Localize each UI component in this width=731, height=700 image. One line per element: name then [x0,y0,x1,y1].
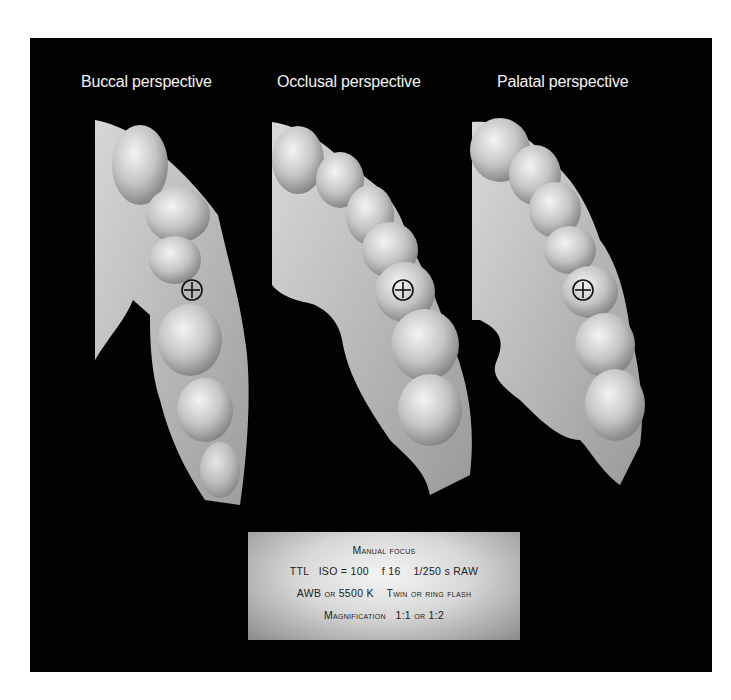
palatal-model [470,118,645,485]
metering: TTL [290,565,309,577]
crosshair-circle-icon [573,280,593,300]
camera-settings-box: Manual focus TTL ISO = 100 f 16 1/250 s … [248,532,520,640]
iso: ISO = 100 [319,565,369,577]
crosshair-circle-icon [393,280,413,300]
crosshair-circle-icon [182,280,202,300]
aperture: f 16 [382,565,401,577]
lighting-settings: AWB or 5500 K Twin or ring flash [248,587,520,599]
file-format: RAW [453,565,478,577]
shutter: 1/250 s [413,565,450,577]
buccal-model [95,120,249,505]
magnification-settings: Magnification 1:1 or 1:2 [248,609,520,621]
exposure-settings: TTL ISO = 100 f 16 1/250 s RAW [248,565,520,577]
white-balance: AWB or 5500 K [297,587,374,599]
occlusal-model [272,122,472,495]
magnification-value: 1:1 or 1:2 [396,609,445,621]
flash: Twin or ring flash [387,587,472,599]
focus-mode: Manual focus [248,544,520,556]
magnification-label: Magnification [324,609,386,621]
